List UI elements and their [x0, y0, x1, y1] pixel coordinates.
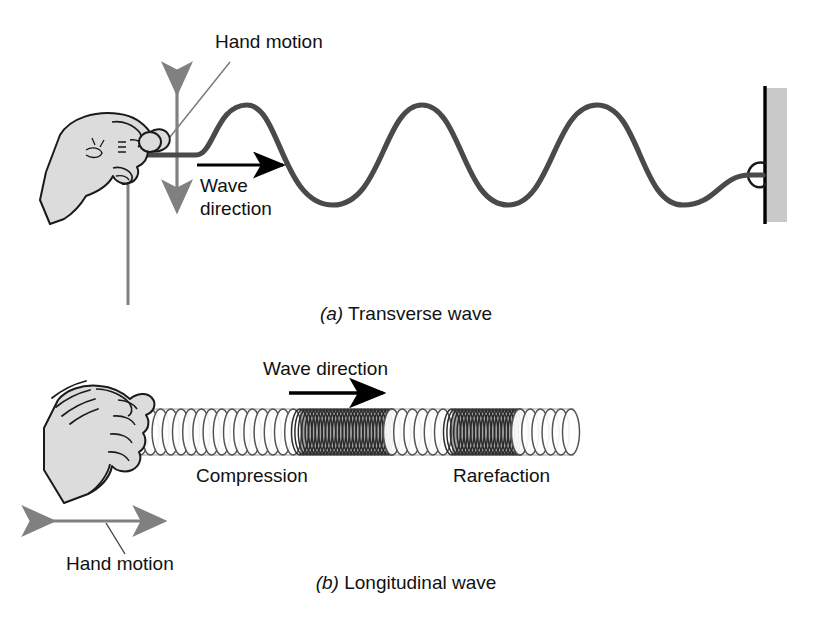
wave-direction-label-a-line1: Wave — [200, 174, 248, 197]
caption-a-text: Transverse wave — [343, 303, 492, 324]
caption-panel-a: (a) Transverse wave — [320, 302, 492, 325]
figure-root: Hand motion Wave direction (a) Transvers… — [0, 0, 813, 623]
rarefaction-label: Rarefaction — [453, 464, 550, 487]
hand-grip-panel-a — [40, 113, 170, 224]
hand-motion-label-a: Hand motion — [215, 30, 323, 53]
caption-panel-b: (b) Longitudinal wave — [316, 571, 497, 594]
caption-a-marker: (a) — [320, 303, 343, 324]
hand-motion-label-b: Hand motion — [66, 552, 174, 575]
hand-grip-panel-b — [44, 381, 154, 503]
compression-label: Compression — [196, 464, 308, 487]
caption-b-text: Longitudinal wave — [339, 572, 496, 593]
slinky-spring — [122, 409, 580, 455]
wave-direction-label-a-line2: direction — [200, 197, 272, 220]
wall-panel-a — [765, 88, 787, 222]
wave-direction-label-b: Wave direction — [263, 357, 388, 380]
hand-motion-leader-line-b — [106, 523, 125, 554]
caption-b-marker: (b) — [316, 572, 339, 593]
spring-coil — [563, 409, 580, 455]
